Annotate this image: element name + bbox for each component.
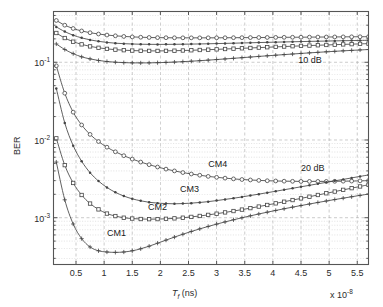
x-tick-label-0-5: 0.5 [61,268,91,278]
y-tick-mantissa: 10 [34,214,44,224]
x-multiplier-exponent: -8 [347,288,353,295]
x-tick-label-5-5: 5.5 [342,268,372,278]
y-tick-label-1e-2: 10-2 [26,134,50,146]
series-cm2-20-db [55,137,371,221]
y-tick-exponent: -1 [44,56,50,63]
annotation-cm3: CM3 [180,184,199,194]
x-tick-label-4-5: 4.5 [286,268,316,278]
x-tick-label-1: 1 [89,268,119,278]
annotation-cm1: CM1 [107,228,126,238]
x-tick-label-3-5: 3.5 [230,268,260,278]
x-tick-label-1-5: 1.5 [117,268,147,278]
y-axis-label: BER [12,136,22,155]
y-tick-label-1e-1: 10-1 [26,56,50,68]
y-tick-exponent: -3 [44,212,50,219]
series-cm3-10-db [55,26,370,46]
y-tick-mantissa: 10 [34,136,44,146]
data-curves [54,19,370,255]
x-tick-label-2-5: 2.5 [174,268,204,278]
x-tick-label-3: 3 [202,268,232,278]
y-tick-exponent: -2 [44,134,50,141]
x-axis-label: Tf (ns) [172,288,197,300]
x-axis-multiplier: x 10-8 [330,288,353,300]
x-tick-label-2: 2 [145,268,175,278]
y-tick-label-1e-3: 10-3 [26,212,50,224]
annotation-20db: 20 dB [301,163,325,173]
x-tick-label-4: 4 [258,268,288,278]
annotation-cm2: CM2 [148,202,167,212]
series-cm4-10-db [54,19,370,40]
x-tick-label-5: 5 [314,268,344,278]
x-axis-label-unit: (ns) [179,288,197,298]
annotation-cm4: CM4 [208,159,227,169]
chart-plot-area [0,0,383,307]
x-multiplier-mantissa: x 10 [330,290,347,300]
series-cm3-20-db [55,87,370,205]
series-cm1-20-db [54,160,370,255]
figure-container: BER 10-1 10-2 10-3 0.511.522.533.544.555… [0,0,383,307]
annotation-10db: 10 dB [298,55,322,65]
y-tick-mantissa: 10 [34,58,44,68]
